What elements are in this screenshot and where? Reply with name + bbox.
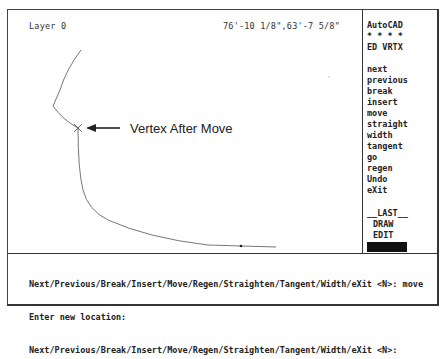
menu-highlight-bar[interactable] (367, 242, 407, 252)
command-prompt-line[interactable]: Next/Previous/Break/Insert/Move/Regen/St… (29, 345, 423, 356)
drawing-area[interactable]: Layer 0 76'-10 1/8",63'-7 5/8" Vertex Af… (8, 10, 362, 253)
vertex-annotation-label: Vertex After Move (130, 121, 233, 136)
menu-item-break[interactable]: break (367, 86, 393, 97)
menu-item-move[interactable]: move (367, 108, 387, 119)
menu-item-exit[interactable]: eXit (367, 185, 387, 196)
command-area-divider (8, 253, 438, 254)
menu-item-width[interactable]: width (367, 130, 393, 141)
menu-item-straight[interactable]: straight (367, 119, 408, 130)
menu-item-previous[interactable]: previous (367, 75, 408, 86)
autocad-window: Layer 0 76'-10 1/8",63'-7 5/8" Vertex Af… (7, 9, 439, 306)
menu-item-edit[interactable]: EDIT (373, 230, 393, 241)
screen-menu: AutoCAD * * * * ED VRTX next previous br… (362, 10, 439, 253)
menu-item-draw[interactable]: DRAW (373, 219, 393, 230)
menu-item-next[interactable]: next (367, 64, 387, 75)
current-layer: Layer 0 (29, 21, 66, 31)
menu-item-last[interactable]: __LAST__ (367, 208, 408, 219)
cursor-coordinates: 76'-10 1/8",63'-7 5/8" (223, 21, 340, 31)
command-history-line: Enter new location: (29, 312, 423, 323)
menu-item-tangent[interactable]: tangent (367, 141, 403, 152)
menu-item-go[interactable]: go (367, 152, 377, 163)
menu-separator[interactable]: * * * * (367, 31, 403, 42)
menu-submenu-ed-vrtx: ED VRTX (367, 42, 403, 53)
command-line-area[interactable]: Next/Previous/Break/Insert/Move/Regen/St… (29, 257, 423, 359)
menu-item-regen[interactable]: regen (367, 163, 393, 174)
command-history-line: Next/Previous/Break/Insert/Move/Regen/St… (29, 279, 423, 290)
menu-item-insert[interactable]: insert (367, 97, 398, 108)
menu-item-undo[interactable]: Undo (367, 174, 387, 185)
menu-title-autocad[interactable]: AutoCAD (367, 20, 403, 31)
